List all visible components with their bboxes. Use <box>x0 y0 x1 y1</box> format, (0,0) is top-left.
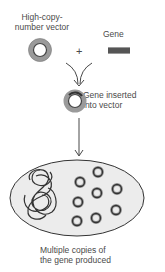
recombinant-plasmid-icon <box>66 92 84 110</box>
gene-fragment-icon <box>108 47 130 54</box>
down-arrow-icon <box>75 118 83 156</box>
combine-arrow-icon <box>66 63 92 86</box>
vector-plasmid-icon <box>29 39 52 62</box>
diagram-graphics <box>0 0 165 272</box>
